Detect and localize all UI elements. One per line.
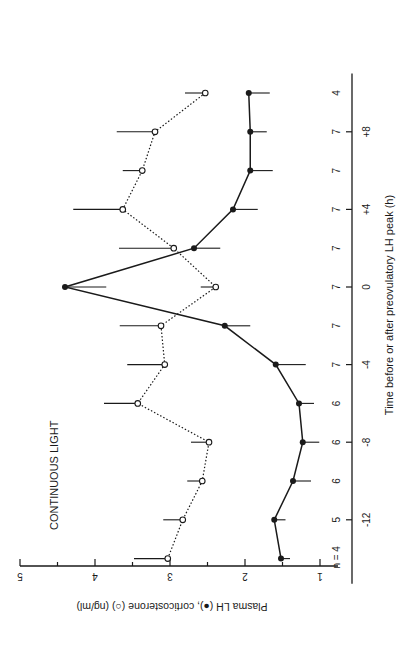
lh-data-point (222, 323, 228, 329)
x-tick-label: +4 (361, 203, 372, 215)
lh-data-point (247, 168, 253, 174)
sample-size-label: 7 (331, 284, 342, 290)
chart-canvas: 12345 -12-8-40+4+8 n = 4566677777774 CON… (0, 0, 399, 650)
time-axis: -12-8-40+4+8 (346, 74, 372, 584)
sample-size-label: 5 (331, 517, 342, 523)
x-tick-label: -8 (361, 437, 372, 446)
lh-data-point (191, 245, 197, 251)
corticosterone-data-point (199, 478, 205, 484)
corticosterone-data-point (206, 439, 212, 445)
corticosterone-data-point (213, 284, 219, 290)
lh-data-point (246, 90, 252, 96)
corticosterone-data-point (158, 323, 164, 329)
corticosterone-data-point (180, 517, 186, 523)
lh-data-point (271, 517, 277, 523)
chart-title: CONTINUOUS LIGHT (48, 420, 60, 530)
y-tick-label: 4 (92, 571, 98, 582)
lh-data-point (278, 556, 284, 562)
y-tick-label: 2 (242, 571, 248, 582)
lh-data-point (296, 400, 302, 406)
lh-data-point (62, 284, 68, 290)
lh-data-point (230, 206, 236, 212)
corticosterone-data-point (162, 362, 168, 368)
x-tick-label: -12 (361, 512, 372, 527)
x-tick-label: 0 (361, 284, 372, 290)
y-axis-label: Plasma LH (●), corticosterone (○) (ng/ml… (76, 601, 267, 613)
y-tick-label: 1 (317, 571, 323, 582)
lh-data-point (273, 362, 279, 368)
x-tick-label: +8 (361, 126, 372, 138)
corticosterone-data-point (120, 207, 126, 213)
lh-series (62, 90, 319, 562)
corticosterone-data-point (165, 556, 171, 562)
corticosterone-data-point (135, 401, 141, 407)
sample-size-label: 7 (331, 323, 342, 329)
sample-size-label: n = 4 (331, 546, 342, 569)
sample-size-label: 4 (331, 90, 342, 96)
sample-size-label: 7 (331, 245, 342, 251)
value-axis: 12345 (17, 559, 338, 582)
sample-size-label: 6 (331, 478, 342, 484)
corticosterone-data-point (202, 90, 208, 96)
corticosterone-data-point (152, 129, 158, 135)
y-tick-label: 3 (167, 571, 173, 582)
y-tick-label: 5 (17, 571, 23, 582)
x-tick-label: -4 (361, 360, 372, 369)
sample-size-label: 7 (331, 167, 342, 173)
lh-data-point (247, 129, 253, 135)
sample-size-label: 7 (331, 206, 342, 212)
x-axis-label: Time before or after preovulatory LH pea… (383, 195, 395, 415)
sample-size-label: 7 (331, 129, 342, 135)
corticosterone-data-point (139, 168, 145, 174)
lh-data-point (290, 478, 296, 484)
sample-size-label: 6 (331, 439, 342, 445)
corticosterone-data-point (171, 245, 177, 251)
sample-size-labels: n = 4566677777774 (331, 90, 342, 569)
corticosterone-series (73, 90, 218, 561)
sample-size-label: 6 (331, 400, 342, 406)
lh-data-point (300, 439, 306, 445)
sample-size-label: 7 (331, 361, 342, 367)
